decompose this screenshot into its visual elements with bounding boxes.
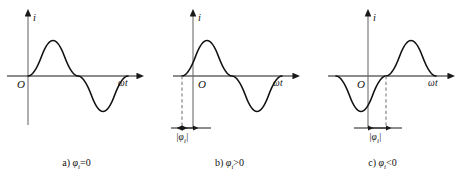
x-axis-label-c: ωt	[428, 79, 438, 89]
waveform-plot-a	[0, 0, 153, 150]
phase-label-b-close: |	[186, 132, 189, 142]
y-axis-label-a: i	[33, 13, 36, 24]
panel-phase-positive: i O ωt |φi| b) φi>0	[153, 0, 306, 182]
waveform-plot-c	[306, 0, 459, 150]
origin-label-b: O	[198, 79, 206, 90]
caption-a: a) φi=0	[0, 157, 153, 171]
y-axis-label-b: i	[198, 13, 201, 24]
x-axis-label-b: ωt	[273, 79, 283, 89]
phase-label-b-open: |φ	[176, 132, 184, 142]
caption-b-prefix: b)	[215, 157, 223, 168]
caption-b-relation: >0	[233, 157, 244, 168]
phase-label-c-open: |φ	[369, 132, 377, 142]
x-axis-label-a: ωt	[118, 79, 128, 89]
phase-diagram-figure: i O ωt a) φi=0	[0, 0, 460, 182]
caption-c-prefix: c)	[368, 157, 376, 168]
panel-phase-zero: i O ωt a) φi=0	[0, 0, 153, 182]
phase-magnitude-label-c: |φi|	[369, 133, 381, 145]
phase-magnitude-label-b: |φi|	[176, 133, 188, 145]
phase-label-c-close: |	[379, 132, 382, 142]
y-axis-label-c: i	[373, 13, 376, 24]
caption-a-prefix: a)	[62, 157, 70, 168]
caption-a-relation: =0	[80, 157, 91, 168]
origin-label-a: O	[17, 79, 25, 90]
panel-phase-negative: i O ωt |φi| c) φi<0	[306, 0, 459, 182]
waveform-plot-b	[153, 0, 306, 150]
caption-b: b) φi>0	[153, 157, 306, 171]
caption-c-relation: <0	[386, 157, 397, 168]
origin-label-c: O	[357, 79, 365, 90]
caption-c: c) φi<0	[306, 157, 459, 171]
